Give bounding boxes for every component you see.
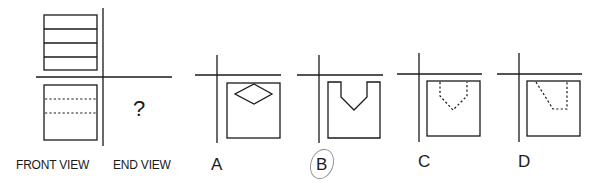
hidden-v-notch bbox=[440, 82, 467, 110]
diamond-shape bbox=[235, 84, 272, 104]
option-b-figure[interactable] bbox=[297, 55, 383, 182]
hidden-slant-notch bbox=[536, 82, 567, 109]
unknown-end-view: ? bbox=[133, 96, 145, 122]
option-b-label[interactable]: B bbox=[316, 155, 327, 175]
option-c-figure[interactable] bbox=[397, 53, 482, 142]
option-a-figure[interactable] bbox=[195, 55, 281, 143]
front-view-label: FRONT VIEW bbox=[16, 158, 89, 172]
orthographic-diagram bbox=[0, 0, 596, 187]
option-c-label[interactable]: C bbox=[418, 152, 430, 172]
end-view-label: END VIEW bbox=[113, 158, 171, 172]
question-figure bbox=[36, 8, 172, 146]
front-view-shape bbox=[44, 85, 97, 140]
top-view-shape bbox=[44, 15, 97, 70]
option-d-label[interactable]: D bbox=[518, 152, 530, 172]
v-notch-shape bbox=[328, 82, 380, 138]
option-a-label[interactable]: A bbox=[211, 155, 222, 175]
option-d-figure[interactable] bbox=[497, 53, 582, 142]
